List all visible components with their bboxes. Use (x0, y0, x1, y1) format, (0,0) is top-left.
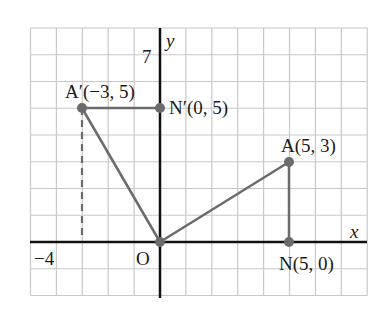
label-n-prime: N′(0, 5) (169, 97, 228, 119)
tick-label-neg-4: −4 (34, 248, 55, 269)
point-a (284, 157, 294, 167)
coordinate-plane: y 7 x −4 O A′(−3, 5) N′(0, 5) A(5, 3) N(… (0, 0, 389, 312)
coordinate-diagram: y 7 x −4 O A′(−3, 5) N′(0, 5) A(5, 3) N(… (0, 0, 389, 312)
point-a-prime (77, 103, 87, 113)
segment-a-prime-o (82, 108, 160, 242)
label-a: A(5, 3) (281, 135, 336, 157)
label-n: N(5, 0) (279, 253, 334, 275)
point-o (155, 237, 165, 247)
segment-o-a (160, 162, 289, 242)
label-a-prime: A′(−3, 5) (65, 81, 135, 103)
y-axis-label: y (164, 30, 175, 51)
point-n-prime (155, 103, 165, 113)
origin-label: O (136, 248, 150, 269)
tick-label-7: 7 (142, 46, 152, 67)
x-axis-label: x (349, 221, 359, 242)
point-n (284, 237, 294, 247)
